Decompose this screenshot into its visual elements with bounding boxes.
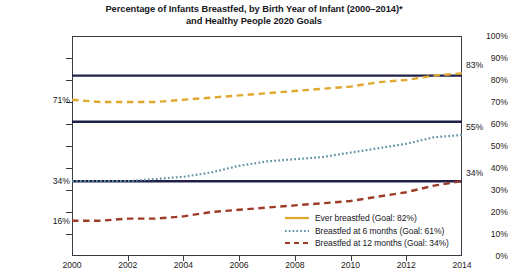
- y-tick-mark-30: [66, 190, 72, 191]
- x-tick-mark-2006: [239, 256, 240, 261]
- value-label-twelve-months-start: 16%: [53, 216, 70, 226]
- legend-swatch-six-months-icon: [284, 226, 310, 236]
- chart-title: Percentage of Infants Breastfed, by Birt…: [0, 3, 508, 28]
- legend-label-twelve-months: Breastfed at 12 months (Goal: 34%): [315, 238, 449, 248]
- y-tick-mark-40: [66, 168, 72, 169]
- value-label-twelve-months-end: 34%: [466, 168, 483, 178]
- value-label-ever-breastfed-end: 83%: [466, 60, 483, 70]
- x-tick-label-2004: 2004: [174, 260, 193, 270]
- value-label-six-months-start: 34%: [53, 176, 70, 186]
- y-tick-label-100: 100%: [472, 31, 508, 41]
- y-tick-mark-90: [66, 58, 72, 59]
- y-tick-label-80: 80%: [472, 75, 508, 85]
- value-label-six-months-end: 55%: [466, 122, 483, 132]
- legend-label-ever-breastfed: Ever breastfed (Goal: 82%): [315, 213, 417, 223]
- y-tick-label-70: 70%: [472, 97, 508, 107]
- x-tick-label-2008: 2008: [285, 260, 304, 270]
- chart-legend: Ever breastfed (Goal: 82%) Breastfed at …: [281, 210, 459, 252]
- breastfeeding-chart-figure: Percentage of Infants Breastfed, by Birt…: [0, 0, 508, 273]
- x-tick-mark-2010: [351, 256, 352, 261]
- x-tick-mark-2008: [295, 256, 296, 261]
- x-tick-label-2014: 2014: [452, 260, 471, 270]
- x-tick-mark-2012: [406, 256, 407, 261]
- legend-item-twelve-months[interactable]: Breastfed at 12 months (Goal: 34%): [284, 237, 456, 250]
- chart-title-line-1: Percentage of Infants Breastfed, by Birt…: [0, 3, 508, 15]
- y-tick-label-50: 50%: [472, 141, 508, 151]
- x-tick-mark-2002: [128, 256, 129, 261]
- legend-label-six-months: Breastfed at 6 months (Goal: 61%): [315, 226, 444, 236]
- x-tick-label-2006: 2006: [230, 260, 249, 270]
- y-tick-label-10: 10%: [472, 229, 508, 239]
- x-tick-label-2002: 2002: [118, 260, 137, 270]
- x-tick-label-2000: 2000: [62, 260, 81, 270]
- y-tick-mark-60: [66, 124, 72, 125]
- value-label-ever-breastfed-start: 71%: [53, 95, 70, 105]
- y-tick-mark-10: [66, 234, 72, 235]
- y-tick-mark-50: [66, 146, 72, 147]
- legend-swatch-ever-breastfed-icon: [284, 213, 310, 223]
- y-tick-mark-80: [66, 80, 72, 81]
- x-tick-label-2012: 2012: [397, 260, 416, 270]
- y-tick-label-20: 20%: [472, 207, 508, 217]
- chart-title-line-2: and Healthy People 2020 Goals: [0, 15, 508, 27]
- y-tick-mark-20: [66, 212, 72, 213]
- y-tick-label-30: 30%: [472, 185, 508, 195]
- x-tick-label-2010: 2010: [341, 260, 360, 270]
- legend-swatch-twelve-months-icon: [284, 238, 310, 248]
- legend-item-ever-breastfed[interactable]: Ever breastfed (Goal: 82%): [284, 212, 456, 225]
- legend-item-six-months[interactable]: Breastfed at 6 months (Goal: 61%): [284, 225, 456, 238]
- x-tick-mark-2004: [183, 256, 184, 261]
- y-tick-label-0: 0%: [472, 251, 508, 261]
